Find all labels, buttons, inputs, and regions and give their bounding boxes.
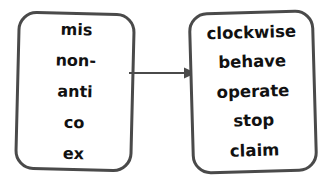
prefix-item-1: mis: [60, 21, 92, 38]
base-word-item-5: claim: [230, 142, 280, 160]
diagram-canvas: mis non- anti co ex clockwise behave ope…: [0, 0, 326, 181]
prefix-item-3: anti: [57, 83, 93, 100]
base-word-box: clockwise behave operate stop claim: [188, 9, 318, 174]
base-word-item-1: clockwise: [206, 24, 296, 43]
prefix-item-4: co: [64, 114, 85, 130]
base-word-item-4: stop: [233, 113, 274, 131]
base-word-item-3: operate: [216, 83, 289, 102]
prefix-item-5: ex: [63, 145, 85, 162]
base-word-item-2: behave: [218, 53, 286, 71]
arrow-right-icon: [126, 60, 196, 88]
prefix-item-2: non-: [55, 52, 96, 69]
prefix-box: mis non- anti co ex: [14, 11, 136, 173]
